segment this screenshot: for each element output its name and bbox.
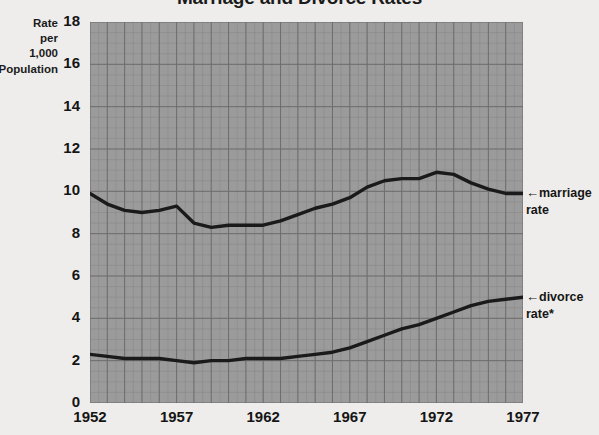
x-tick-label: 1957 xyxy=(147,408,207,425)
x-tick-label: 1972 xyxy=(406,408,466,425)
page-title: Marriage and Divorce Rates xyxy=(0,0,599,9)
y-tick-label: 14 xyxy=(46,97,80,114)
left-arrow-icon: ← xyxy=(526,289,539,304)
chart-page: Marriage and Divorce Rates Rate per 1,00… xyxy=(0,0,599,435)
y-tick-label: 4 xyxy=(46,308,80,325)
x-tick-label: 1977 xyxy=(493,408,553,425)
divorce-rate-annotation: ←divorce rate* xyxy=(526,288,583,323)
y-tick-label: 16 xyxy=(46,54,80,71)
y-tick-label: 10 xyxy=(46,181,80,198)
y-tick-label: 2 xyxy=(46,351,80,368)
marriage-rate-annotation: ←marriage rate xyxy=(526,184,592,219)
y-tick-label: 8 xyxy=(46,224,80,241)
y-tick-label: 12 xyxy=(46,139,80,156)
plot-lines xyxy=(90,22,523,403)
x-tick-label: 1967 xyxy=(320,408,380,425)
left-arrow-icon: ← xyxy=(526,185,539,200)
y-tick-label: 6 xyxy=(46,266,80,283)
y-tick-label: 18 xyxy=(46,12,80,29)
x-tick-label: 1962 xyxy=(233,408,293,425)
x-tick-label: 1952 xyxy=(60,408,120,425)
plot-area xyxy=(90,22,523,403)
